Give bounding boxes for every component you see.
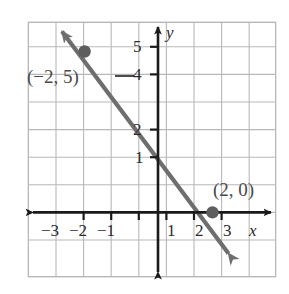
x-tick-label-3: 3	[223, 222, 232, 239]
y-tick-label-1: 1	[135, 149, 144, 166]
annotation-label-2-0: (2, 0)	[213, 180, 254, 199]
y-axis-name: y	[166, 24, 174, 41]
x-tick-label-1: 1	[167, 222, 176, 239]
x-tick-label-neg1: −1	[97, 222, 115, 239]
coordinate-plane	[0, 0, 289, 294]
y-tick-label-2: 2	[133, 121, 142, 138]
annotation-label-neg2-5: (−2, 5)	[27, 67, 79, 86]
graph-figure: 5 4 2 1 −3 −2 −1 1 2 3 y x (−2, 5) (2, 0…	[0, 0, 289, 294]
point-marker-2-0	[206, 206, 218, 218]
point-marker-neg2-5	[78, 45, 90, 57]
x-tick-label-neg2: −2	[69, 222, 87, 239]
x-axis-name: x	[249, 222, 257, 239]
y-tick-label-4: 4	[133, 66, 142, 83]
y-tick-label-5: 5	[133, 38, 142, 55]
x-tick-label-neg3: −3	[41, 222, 59, 239]
x-tick-label-2: 2	[195, 222, 204, 239]
